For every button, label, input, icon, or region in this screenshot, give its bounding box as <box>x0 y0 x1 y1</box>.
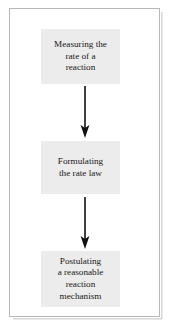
flowchart: Measuring the rate of a reaction Formula… <box>10 9 161 318</box>
flowchart-node-label: Measuring the rate of a reaction <box>51 39 110 74</box>
figure-frame: Measuring the rate of a reaction Formula… <box>9 8 160 317</box>
flow-arrow-down-icon-1 <box>78 86 92 138</box>
flowchart-node-label: Formulating the rate law <box>55 156 106 179</box>
flowchart-node-formulating-rate-law: Formulating the rate law <box>41 141 120 194</box>
flowchart-node-postulating-mechanism: Postulating a reasonable reaction mechan… <box>41 251 120 307</box>
frame-shadow-right <box>161 12 163 319</box>
frame-shadow-bottom <box>13 318 162 320</box>
flowchart-node-label: Postulating a reasonable reaction mechan… <box>55 256 107 302</box>
flowchart-node-measuring-rate: Measuring the rate of a reaction <box>41 29 120 84</box>
flow-arrow-down-icon-2 <box>78 197 92 249</box>
